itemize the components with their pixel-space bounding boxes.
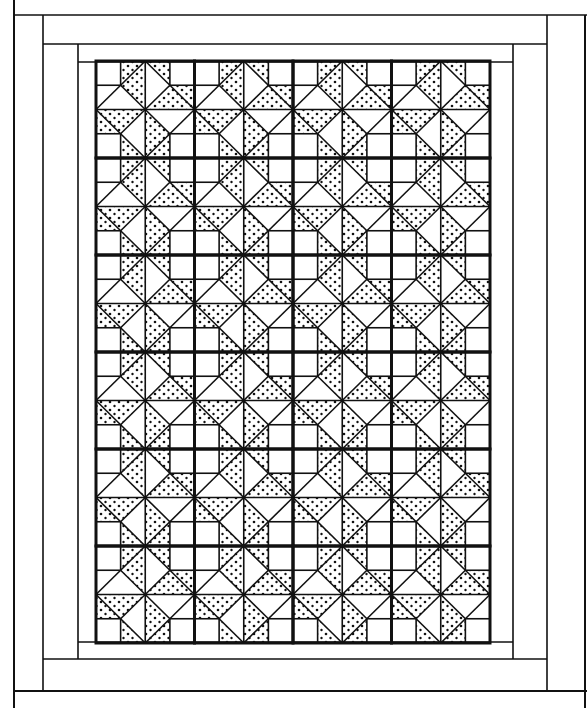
quilt-block: [392, 546, 491, 643]
quilt-block: [195, 158, 294, 255]
quilt-block: [195, 546, 294, 643]
quilt-block: [293, 546, 392, 643]
quilt-block: [96, 255, 195, 352]
quilt-block: [96, 61, 195, 158]
quilt-block: [392, 449, 491, 546]
quilt-block: [392, 352, 491, 449]
quilt-block: [195, 255, 294, 352]
quilt-blocks: [96, 61, 490, 643]
quilt-block: [293, 158, 392, 255]
quilt-block: [392, 158, 491, 255]
quilt-block: [96, 158, 195, 255]
quilt-block: [392, 61, 491, 158]
quilt-block: [96, 546, 195, 643]
quilt-block: [96, 352, 195, 449]
quilt-block: [96, 449, 195, 546]
quilt-block: [195, 449, 294, 546]
quilt-drawing: [0, 0, 587, 708]
quilt-block: [195, 61, 294, 158]
quilt-block: [195, 352, 294, 449]
quilt-block: [392, 255, 491, 352]
quilt-block: [293, 449, 392, 546]
quilt-block: [293, 61, 392, 158]
quilt-block: [293, 255, 392, 352]
quilt-block: [293, 352, 392, 449]
